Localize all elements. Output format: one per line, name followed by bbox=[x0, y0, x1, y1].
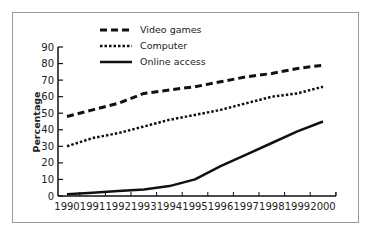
legend: Video games Computer Online access bbox=[100, 24, 206, 67]
y-tick-label: 10 bbox=[41, 174, 54, 185]
y-tick-label: 20 bbox=[41, 157, 54, 168]
legend-label-online-access: Online access bbox=[140, 56, 206, 67]
legend-label-video-games: Video games bbox=[140, 24, 202, 35]
y-axis: 0102030405060708090 bbox=[41, 42, 63, 202]
y-tick-label: 60 bbox=[41, 91, 54, 102]
x-tick-label: 1995 bbox=[182, 201, 207, 212]
x-tick-label: 1992 bbox=[105, 201, 130, 212]
y-tick-label: 70 bbox=[41, 75, 54, 86]
x-tick-label: 1994 bbox=[157, 201, 182, 212]
x-tick-label: 2000 bbox=[310, 201, 335, 212]
line-chart: 0102030405060708090 19901991199219931994… bbox=[0, 0, 368, 235]
y-tick-label: 80 bbox=[41, 58, 54, 69]
x-tick-label: 1996 bbox=[208, 201, 233, 212]
x-tick-label: 1991 bbox=[80, 201, 105, 212]
y-tick-label: 90 bbox=[41, 42, 54, 53]
x-tick-label: 1997 bbox=[233, 201, 258, 212]
x-tick-label: 1999 bbox=[285, 201, 310, 212]
series-lines bbox=[67, 65, 323, 194]
y-axis-title: Percentage bbox=[31, 91, 42, 152]
x-tick-label: 1993 bbox=[131, 201, 156, 212]
y-tick-label: 40 bbox=[41, 124, 54, 135]
y-tick-label: 50 bbox=[41, 108, 54, 119]
y-tick-label: 0 bbox=[48, 191, 54, 202]
x-axis: 1990199119921993199419951996199719981999… bbox=[54, 192, 336, 212]
legend-label-computer: Computer bbox=[140, 40, 187, 51]
x-tick-label: 1998 bbox=[259, 201, 284, 212]
series-video-games bbox=[67, 65, 323, 116]
x-tick-label: 1990 bbox=[54, 201, 79, 212]
y-tick-label: 30 bbox=[41, 141, 54, 152]
series-online-access bbox=[67, 122, 323, 195]
